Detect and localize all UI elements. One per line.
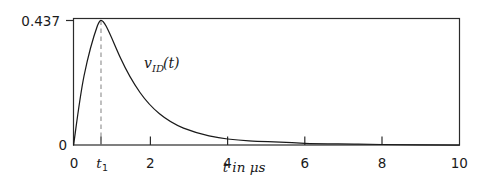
figure-container: 0.437 0 0 t 1 2 4 6 8 10 t in μs v ID (t…	[0, 0, 488, 181]
waveform-chart: 0.437 0 0 t 1 2 4 6 8 10 t in μs v ID (t…	[0, 0, 488, 181]
x-tick-label-6: 6	[301, 155, 310, 171]
plot-frame	[74, 19, 460, 146]
x-axis-label: t in μs	[223, 159, 266, 175]
y-tick-label-0437: 0.437	[21, 13, 60, 29]
curve-label-main: v	[144, 55, 152, 71]
x-tick-label-2: 2	[146, 155, 155, 171]
curve-label-argument: (t)	[163, 55, 180, 71]
y-tick-label-0: 0	[58, 137, 67, 153]
x-tick-label-8: 8	[378, 155, 387, 171]
x-tick-label-10: 10	[451, 155, 468, 171]
x-tick-label-0: 0	[70, 155, 79, 171]
waveform-curve	[74, 20, 460, 145]
x-tick-label-t1-subscript: 1	[102, 162, 108, 173]
